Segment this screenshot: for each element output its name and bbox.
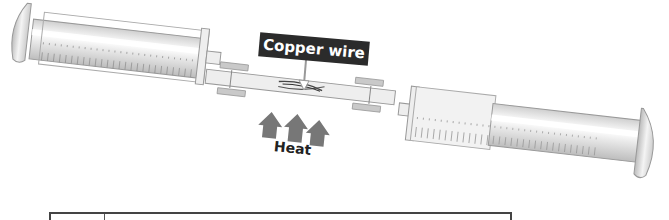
table-column-divider [104,214,105,220]
right-syringe [394,81,657,179]
left-syringe [9,2,224,86]
syringe-apparatus-diagram [0,0,669,220]
data-table [49,212,512,220]
arrow-up-icon [257,111,284,139]
connecting-tube [204,60,396,113]
